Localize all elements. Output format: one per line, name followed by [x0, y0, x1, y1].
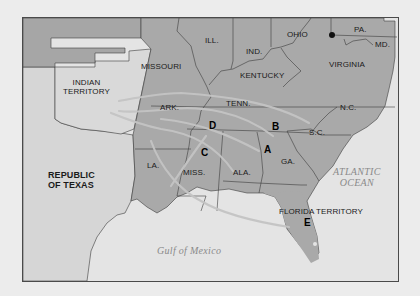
- map-frame: MISSOURI ILL. IND. OHIO PA. MD. KENTUCKY…: [22, 17, 399, 282]
- territory-label-republic-of-texas: REPUBLIC OF TEXAS: [48, 171, 95, 190]
- state-label-virginia: VIRGINIA: [329, 61, 365, 69]
- state-label-alabama: ALA.: [233, 169, 251, 177]
- state-label-pennsylvania: PA.: [354, 26, 367, 34]
- state-label-illinois: ILL.: [205, 37, 219, 45]
- territory-label-indian-territory: INDIAN TERRITORY: [63, 79, 110, 96]
- state-label-maryland: MD.: [375, 41, 390, 49]
- marker-dot: [329, 32, 335, 38]
- state-label-north-carolina: N.C.: [340, 104, 356, 112]
- state-label-arkansas: ARK.: [160, 104, 179, 112]
- state-label-tennessee: TENN.: [226, 100, 251, 108]
- water-label-gulf-of-mexico: Gulf of Mexico: [157, 246, 221, 257]
- territory-label-florida: FLORIDA TERRITORY: [279, 208, 363, 216]
- map-graphic: [23, 18, 398, 281]
- state-label-ohio: OHIO: [287, 31, 308, 39]
- map-marker-b: B: [272, 122, 279, 132]
- water-label-atlantic-ocean: ATLANTIC OCEAN: [333, 167, 381, 188]
- state-label-mississippi: MISS.: [183, 169, 205, 177]
- state-label-indiana: IND.: [246, 48, 262, 56]
- state-label-georgia: GA.: [281, 158, 295, 166]
- map-marker-c: C: [201, 148, 208, 158]
- state-label-louisiana: LA.: [147, 162, 159, 170]
- map-marker-e: E: [304, 218, 311, 228]
- state-label-south-carolina: S.C.: [309, 129, 325, 137]
- state-label-kentucky: KENTUCKY: [240, 72, 284, 80]
- state-label-missouri: MISSOURI: [141, 63, 181, 71]
- map-marker-a: A: [264, 145, 271, 155]
- map-marker-d: D: [209, 121, 216, 131]
